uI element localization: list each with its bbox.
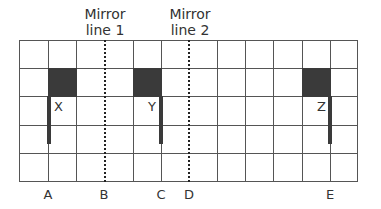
mirror-line-2	[188, 40, 190, 182]
label-d: D	[184, 187, 194, 202]
flag-z-banner	[302, 68, 331, 97]
grid-line	[302, 40, 303, 182]
label-a: A	[44, 187, 53, 202]
flag-y-label: Y	[148, 99, 156, 114]
mirror-line-2-title: Mirror line 2	[167, 6, 213, 38]
mirror-line-2-title-bottom: line 2	[167, 22, 213, 38]
flag-z-pole	[328, 96, 332, 144]
label-e: E	[326, 187, 334, 202]
mirror-line-1-title-bottom: line 1	[82, 22, 128, 38]
flag-y-banner	[133, 68, 162, 97]
grid-line	[273, 40, 274, 182]
grid-line	[133, 40, 134, 182]
label-b: B	[100, 187, 109, 202]
grid-line	[245, 40, 246, 182]
mirror-line-1-title-top: Mirror	[82, 6, 128, 22]
flag-y-pole	[159, 96, 163, 144]
mirror-line-1-title: Mirror line 1	[82, 6, 128, 38]
grid-line	[217, 40, 218, 182]
flag-x-banner	[48, 68, 77, 97]
mirror-line-2-title-top: Mirror	[167, 6, 213, 22]
mirror-line-1	[104, 40, 106, 182]
grid-line	[76, 40, 77, 182]
flag-z-label: Z	[317, 99, 326, 114]
flag-x-label: X	[54, 99, 63, 114]
flag-x-pole	[47, 96, 51, 144]
label-c: C	[156, 187, 165, 202]
